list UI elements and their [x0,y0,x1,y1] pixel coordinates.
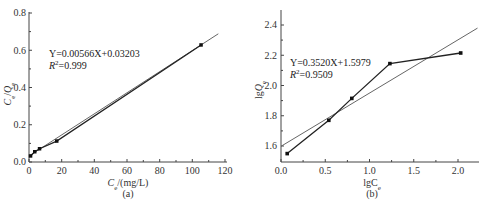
chart-b: 1.6 1.8 2.0 2.2 2.4 0.0 0.5 1.0 1.5 2.0 [253,10,479,200]
x-tick-label: 40 [89,165,99,176]
x-tick-label: 2.0 [452,165,465,176]
y-tick-label: 0.0 [14,156,27,167]
x-tick-label: 20 [57,165,67,176]
fit-line-b [281,28,478,146]
x-tick-label: 1.0 [363,165,376,176]
x-tick-label: 120 [218,165,233,176]
y-tick-label: 0.2 [14,119,27,130]
y-tick-label: 0.6 [14,45,27,56]
figure: 0.0 0.2 0.4 0.6 0.8 0 20 40 60 80 100 12… [0,0,484,202]
y-axis-label-a: Ce/Qe [2,83,17,106]
x-tick-label: 80 [155,165,165,176]
y-tick-label: 1.8 [265,110,278,121]
panel-label-a: (a) [122,188,133,200]
equation-b: Y=0.3520X+1.5979 [290,57,371,68]
panel-label-b: (b) [366,188,378,200]
x-tick-label: 100 [185,165,200,176]
y-tick-label: 2.2 [265,50,278,61]
x-tick-label: 0.0 [275,165,288,176]
x-tick-label: 60 [122,165,132,176]
r2-a: R2=0.999 [48,59,87,71]
y-tick-label: 0.8 [14,7,27,18]
x-tick-label: 0.5 [319,165,332,176]
x-tick-label: 0 [27,165,32,176]
y-tick-label: 2.4 [265,19,278,30]
equation-a: Y=0.00566X+0.03203 [49,48,140,59]
x-tick-label: 1.5 [408,165,421,176]
y-tick-label: 1.6 [265,140,278,151]
chart-a: 0.0 0.2 0.4 0.6 0.8 0 20 40 60 80 100 12… [2,7,233,200]
r2-b: R2=0.9509 [289,68,333,80]
